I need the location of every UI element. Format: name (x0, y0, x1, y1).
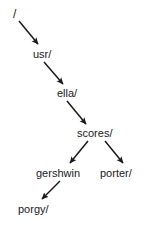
tree-node-scores[interactable]: scores/ (77, 127, 112, 139)
arrow-scores-to-gershwin (70, 141, 88, 163)
arrow-gershwin-to-porgy (42, 181, 60, 199)
tree-node-ella[interactable]: ella/ (57, 87, 77, 99)
tree-node-gershwin[interactable]: gershwin (36, 167, 80, 179)
arrow-usr-to-ella (44, 62, 63, 84)
arrow-scores-to-porter (105, 141, 123, 163)
arrow-layer (0, 0, 146, 225)
arrow-ella-to-scores (67, 101, 86, 124)
directory-tree-diagram: /usr/ella/scores/gershwinporter/porgy/ (0, 0, 146, 225)
tree-node-porter[interactable]: porter/ (100, 167, 132, 179)
tree-node-root[interactable]: / (13, 8, 16, 20)
tree-node-porgy[interactable]: porgy/ (18, 203, 49, 215)
tree-node-usr[interactable]: usr/ (33, 48, 51, 60)
arrow-root-to-usr (19, 21, 38, 44)
